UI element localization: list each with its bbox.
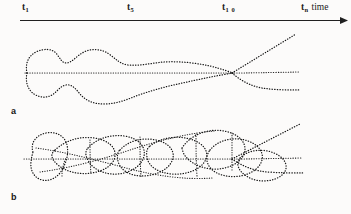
panel-b-envelope-4 — [117, 139, 173, 176]
panel-a-envelope-upper — [26, 49, 233, 73]
panel-b-label: b — [11, 192, 17, 202]
panel-a-envelope-lower — [26, 73, 233, 104]
axis-tick-tn-sub: n — [304, 6, 308, 13]
axis-tick-t1-sub: 1 — [25, 6, 29, 13]
axis-tick-t5-sub: 5 — [130, 6, 134, 13]
panel-a-label: a — [11, 106, 16, 116]
panel-a-branch-up — [232, 34, 296, 73]
time-axis — [20, 17, 348, 24]
panel-b-envelope-6 — [182, 130, 245, 169]
panel-b-branch-up — [232, 124, 300, 159]
panel-a-branch-middle — [232, 72, 300, 73]
axis-tick-t10-sub: 1 0 — [225, 6, 235, 13]
panel-a-graphics — [25, 34, 300, 104]
axis-tick-t1: t1 — [22, 2, 29, 12]
axis-tick-tn: tntime — [301, 2, 328, 12]
axis-title-time: time — [312, 2, 329, 12]
panel-b-strand-4 — [90, 140, 91, 174]
panel-b-strand-1 — [40, 131, 214, 172]
figure-canvas — [0, 0, 351, 214]
panel-b-graphics — [24, 124, 304, 181]
panel-b-envelope-3 — [86, 136, 144, 175]
panel-b-branch-middle — [232, 158, 302, 159]
panel-b-envelope-5 — [147, 137, 207, 174]
scientific-figure: t1 t5 t1 0 tntime a b — [0, 0, 351, 214]
axis-tick-t10: t1 0 — [222, 2, 235, 12]
panel-b-branch-down — [232, 159, 304, 173]
time-axis-arrowhead — [340, 17, 348, 24]
panel-a-branch-down — [232, 73, 300, 90]
axis-tick-t5: t5 — [127, 2, 134, 12]
